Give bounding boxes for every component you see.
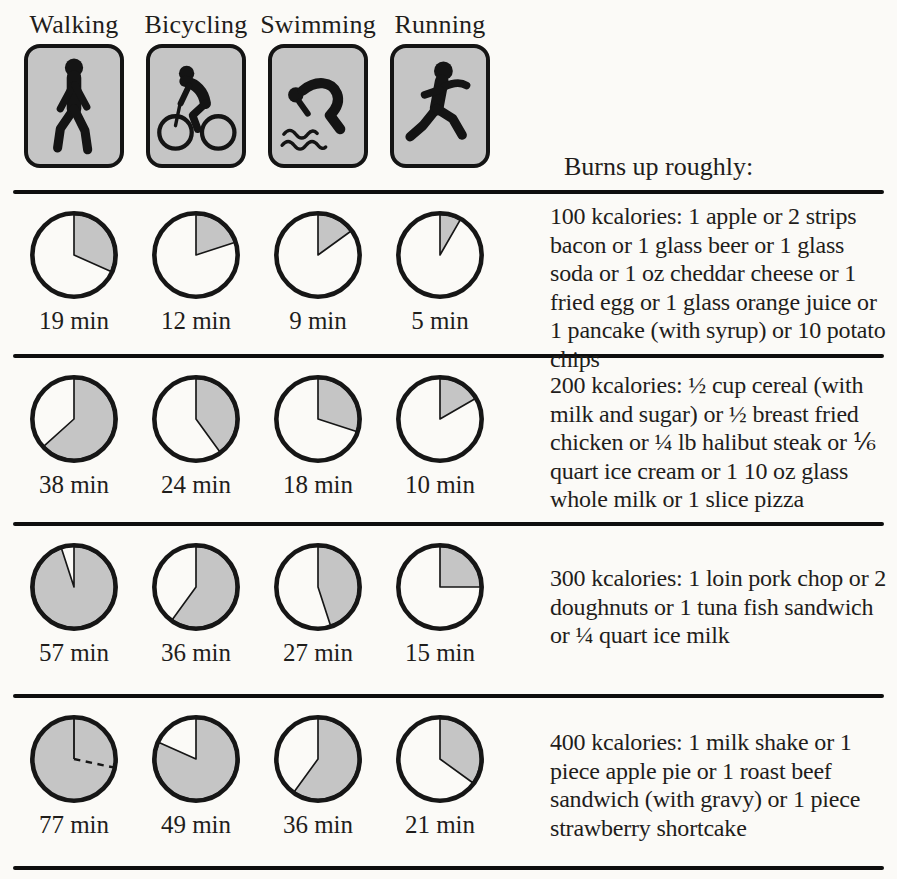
calorie-row-300: 57 min 36 min 27 min 15 min 300 kcalorie…	[0, 522, 897, 694]
food-equivalents-400: 400 kcalories: 1 milk shake or 1 piece a…	[550, 698, 892, 842]
pie-cell-running-200: 10 min	[379, 373, 501, 514]
pie-minutes-label: 38 min	[13, 471, 135, 499]
pie-cell-bicycling-100: 12 min	[135, 209, 257, 373]
pie-cell-walking-300: 57 min	[13, 541, 135, 667]
pie-minutes-label: 27 min	[257, 639, 379, 667]
pie-minutes-label: 12 min	[135, 307, 257, 335]
pie-group-300: 57 min 36 min 27 min 15 min	[0, 526, 550, 667]
pie-group-400: 77 min 49 min 36 min 21 min	[0, 698, 550, 842]
pie-chart-running-100	[394, 209, 486, 301]
calorie-row-200: 38 min 24 min 18 min 10 min 200 kcalorie…	[0, 354, 897, 522]
header: Walking Bicycling	[0, 0, 897, 190]
pie-minutes-label: 36 min	[135, 639, 257, 667]
activity-column-bicycling: Bicycling	[135, 0, 257, 190]
pie-group-200: 38 min 24 min 18 min 10 min	[0, 358, 550, 514]
pie-minutes-label: 77 min	[13, 811, 135, 839]
pie-minutes-label: 15 min	[379, 639, 501, 667]
pie-cell-bicycling-200: 24 min	[135, 373, 257, 514]
pie-chart-swimming-300	[272, 541, 364, 633]
pie-minutes-label: 19 min	[13, 307, 135, 335]
pie-chart-running-200	[394, 373, 486, 465]
activity-label-running: Running	[395, 10, 486, 44]
food-equivalents-300: 300 kcalories: 1 loin pork chop or 2 dou…	[550, 526, 892, 667]
pie-cell-walking-400: 77 min	[13, 713, 135, 842]
swimming-icon	[268, 44, 368, 168]
bicycling-icon	[146, 44, 246, 168]
activity-columns: Walking Bicycling	[0, 0, 550, 190]
pie-chart-bicycling-400	[150, 713, 242, 805]
activity-label-walking: Walking	[30, 10, 119, 44]
food-equivalents-100: 100 kcalories: 1 apple or 2 strips bacon…	[550, 194, 892, 373]
pie-cell-swimming-200: 18 min	[257, 373, 379, 514]
pie-minutes-label: 9 min	[257, 307, 379, 335]
pie-chart-bicycling-100	[150, 209, 242, 301]
pie-chart-swimming-400	[272, 713, 364, 805]
calorie-burn-chart: Walking Bicycling	[0, 0, 897, 879]
pie-minutes-label: 5 min	[379, 307, 501, 335]
pie-chart-walking-300	[28, 541, 120, 633]
pie-chart-swimming-200	[272, 373, 364, 465]
burns-up-roughly-label: Burns up roughly:	[564, 152, 753, 182]
pie-chart-running-400	[394, 713, 486, 805]
pie-cell-walking-200: 38 min	[13, 373, 135, 514]
calorie-row-100: 19 min 12 min 9 min 5 min 100 kcalories:…	[0, 190, 897, 354]
pie-cell-swimming-100: 9 min	[257, 209, 379, 373]
pie-chart-walking-100	[28, 209, 120, 301]
activity-column-swimming: Swimming	[257, 0, 379, 190]
pie-cell-running-100: 5 min	[379, 209, 501, 373]
pie-cell-walking-100: 19 min	[13, 209, 135, 373]
pie-minutes-label: 49 min	[135, 811, 257, 839]
pie-chart-walking-400	[28, 713, 120, 805]
calorie-row-400: 77 min 49 min 36 min 21 min 400 kcalorie…	[0, 694, 897, 866]
pie-minutes-label: 21 min	[379, 811, 501, 839]
pie-minutes-label: 57 min	[13, 639, 135, 667]
pie-chart-walking-200	[28, 373, 120, 465]
pie-minutes-label: 24 min	[135, 471, 257, 499]
activity-label-swimming: Swimming	[260, 10, 376, 44]
bottom-divider	[13, 866, 884, 870]
pie-chart-bicycling-200	[150, 373, 242, 465]
activity-column-walking: Walking	[13, 0, 135, 190]
pie-cell-swimming-300: 27 min	[257, 541, 379, 667]
pie-cell-bicycling-300: 36 min	[135, 541, 257, 667]
pie-cell-running-300: 15 min	[379, 541, 501, 667]
running-icon	[390, 44, 490, 168]
pie-minutes-label: 18 min	[257, 471, 379, 499]
activity-column-running: Running	[379, 0, 501, 190]
pie-chart-bicycling-300	[150, 541, 242, 633]
pie-cell-swimming-400: 36 min	[257, 713, 379, 842]
food-equivalents-200: 200 kcalories: ½ cup cereal (with milk a…	[550, 358, 892, 514]
pie-minutes-label: 36 min	[257, 811, 379, 839]
pie-chart-running-300	[394, 541, 486, 633]
activity-label-bicycling: Bicycling	[145, 10, 248, 44]
pie-minutes-label: 10 min	[379, 471, 501, 499]
walking-icon	[24, 44, 124, 168]
pie-cell-bicycling-400: 49 min	[135, 713, 257, 842]
pie-cell-running-400: 21 min	[379, 713, 501, 842]
pie-group-100: 19 min 12 min 9 min 5 min	[0, 194, 550, 373]
pie-chart-swimming-100	[272, 209, 364, 301]
